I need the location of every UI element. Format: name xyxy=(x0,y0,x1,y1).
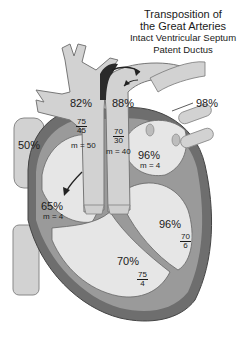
pa-saturation: 88% xyxy=(112,98,134,109)
la-mean: m = 4 xyxy=(140,162,160,170)
pulmonary-valve xyxy=(108,205,130,214)
aortic-valve xyxy=(84,205,104,214)
aorta-mean: m = 50 xyxy=(71,142,96,150)
rv-saturation: 70% xyxy=(117,256,139,267)
title-line-2: the Great Arteries xyxy=(128,20,238,32)
svc-saturation: 50% xyxy=(18,140,40,151)
aorta-diastolic: 45 xyxy=(76,127,87,135)
ra-saturation: 65% xyxy=(41,201,63,212)
ra-mean: m = 4 xyxy=(43,213,63,221)
title-line-3: Intact Ventricular Septum xyxy=(128,32,238,44)
diagram-title: Transposition of the Great Arteries Inta… xyxy=(128,8,238,56)
pulmonary-vein-saturation: 98% xyxy=(196,98,218,109)
pa-diastolic: 30 xyxy=(113,137,124,145)
aorta-pressure: 75 45 xyxy=(76,118,87,135)
title-line-1: Transposition of xyxy=(128,8,238,20)
pa-mean: m = 40 xyxy=(106,148,131,156)
title-line-4: Patent Ductus xyxy=(128,44,238,56)
pa-pressure: 70 30 xyxy=(113,128,124,145)
rv-diastolic: 4 xyxy=(137,280,148,288)
lv-pressure: 70 6 xyxy=(180,233,191,250)
aorta-saturation: 82% xyxy=(70,98,92,109)
pulmonary-vein-ostium-2 xyxy=(172,134,180,146)
lv-diastolic: 6 xyxy=(180,242,191,250)
lv-saturation: 96% xyxy=(159,219,181,230)
pulmonary-vein-ostium-1 xyxy=(146,124,154,136)
rv-pressure: 75 4 xyxy=(137,271,148,288)
la-saturation: 96% xyxy=(138,150,160,161)
